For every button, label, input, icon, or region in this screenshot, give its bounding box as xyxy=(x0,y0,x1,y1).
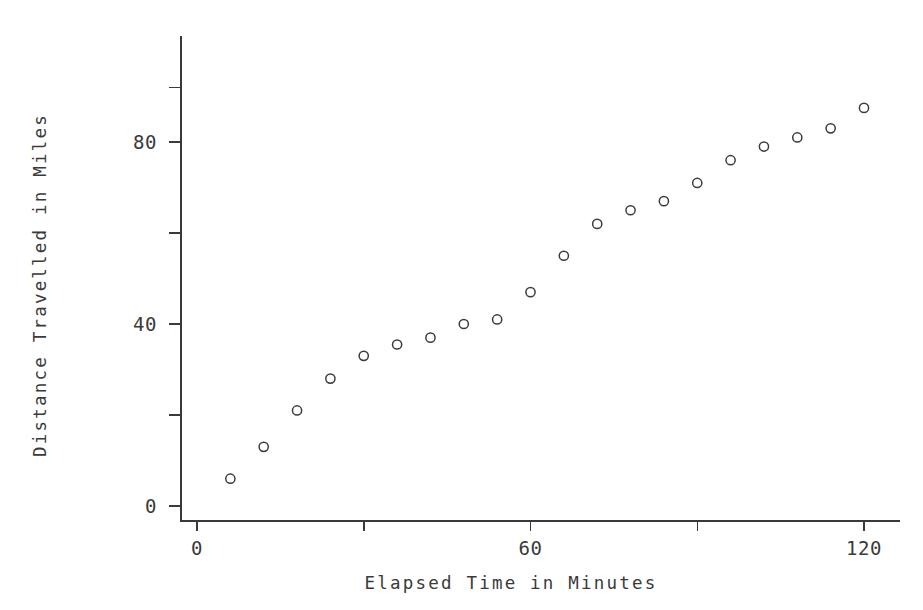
x-axis-title: Elapsed Time in Minutes xyxy=(365,573,658,593)
y-axis-tick-label: 0 xyxy=(145,495,157,517)
axis-spines xyxy=(181,36,900,521)
data-point xyxy=(326,374,335,383)
data-point xyxy=(826,124,835,133)
data-point xyxy=(259,442,268,451)
y-axis-tick-label: 80 xyxy=(133,131,157,153)
data-point xyxy=(226,474,235,483)
data-point xyxy=(426,333,435,342)
data-point xyxy=(559,251,568,260)
data-point xyxy=(659,197,668,206)
y-axis-title: Distance Travelled in Miles xyxy=(30,113,50,457)
data-point xyxy=(292,406,301,415)
data-point xyxy=(793,133,802,142)
axis-tick-labels-group: 06012004080 xyxy=(133,131,882,559)
axes-group xyxy=(181,36,900,521)
data-point xyxy=(693,178,702,187)
data-point xyxy=(459,319,468,328)
data-point xyxy=(493,315,502,324)
x-axis-tick-label: 0 xyxy=(191,537,203,559)
data-point xyxy=(593,219,602,228)
data-point xyxy=(726,156,735,165)
data-point xyxy=(526,288,535,297)
data-point xyxy=(626,206,635,215)
data-points-group xyxy=(226,103,869,483)
axis-ticks-group xyxy=(169,87,864,531)
data-point xyxy=(359,351,368,360)
data-point xyxy=(859,103,868,112)
chart-figure: 06012004080 Elapsed Time in Minutes Dist… xyxy=(0,0,923,610)
scatter-plot-canvas: 06012004080 Elapsed Time in Minutes Dist… xyxy=(0,0,923,610)
data-point xyxy=(759,142,768,151)
y-axis-tick-label: 40 xyxy=(133,313,157,335)
x-axis-tick-label: 60 xyxy=(519,537,543,559)
x-axis-tick-label: 120 xyxy=(846,537,882,559)
data-point xyxy=(393,340,402,349)
